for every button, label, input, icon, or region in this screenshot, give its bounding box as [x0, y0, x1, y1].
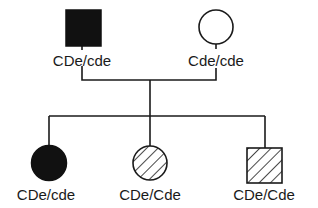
- child-2-node: CDe/Cde: [119, 146, 181, 203]
- child-1-node: CDe/cde: [17, 146, 75, 204]
- mother-node: Cde/cde: [188, 10, 244, 69]
- child-1-genotype: CDe/cde: [17, 186, 75, 203]
- child-3-genotype: CDe/Cde: [233, 186, 295, 203]
- pedigree-chart: CDe/cde Cde/cde CDe/cde CDe/Cde CDe/Cde: [0, 0, 318, 208]
- affected-female-circle-icon: [32, 146, 67, 181]
- carrier-male-hatched-square-icon: [247, 148, 282, 183]
- father-node: CDe/cde: [53, 10, 111, 69]
- affected-male-square-icon: [66, 10, 101, 46]
- mother-genotype: Cde/cde: [188, 52, 244, 69]
- father-genotype: CDe/cde: [53, 52, 111, 69]
- carrier-female-hatched-circle-icon: [133, 146, 167, 180]
- child-2-genotype: CDe/Cde: [119, 186, 181, 203]
- child-3-node: CDe/Cde: [233, 148, 295, 203]
- unaffected-female-circle-icon: [199, 10, 233, 44]
